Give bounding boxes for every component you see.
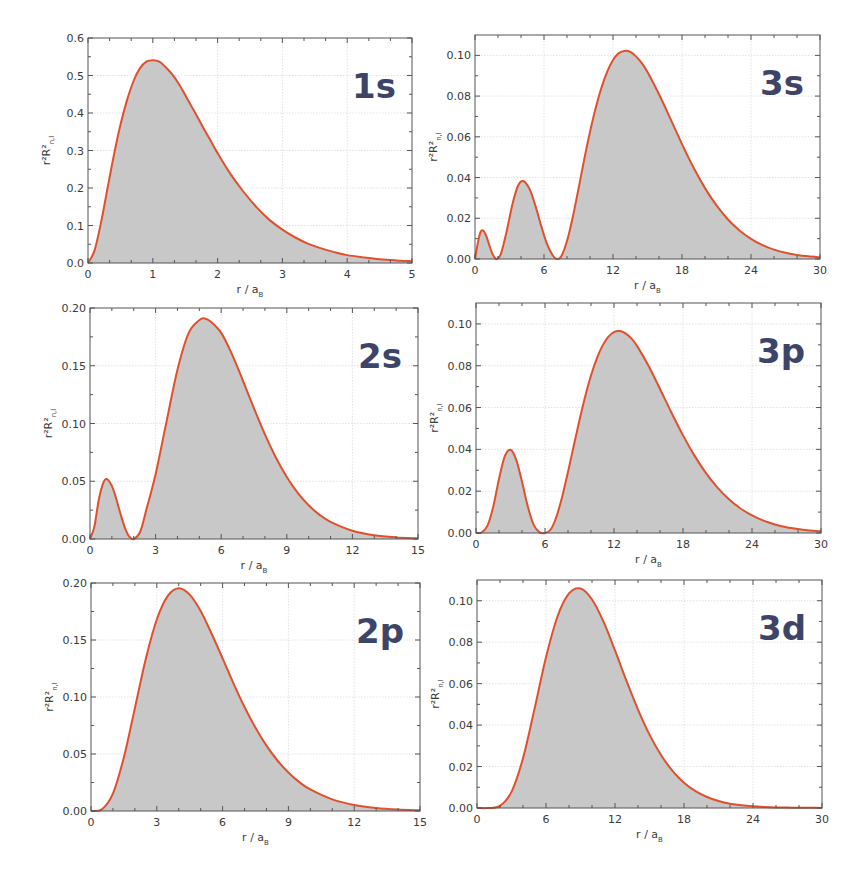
x-axis-label-subscript: B: [259, 291, 264, 299]
y-tick-label: 0.4: [67, 107, 85, 120]
x-tick-label: 12: [347, 816, 361, 829]
y-tick-label: 0.20: [62, 302, 87, 315]
y-tick-label: 0.06: [447, 131, 472, 144]
y-tick-label: 0.00: [62, 533, 87, 546]
orbital-radial-distribution-figure: 0123450.00.10.20.30.40.50.6r / aBr²R²n,l…: [0, 0, 859, 880]
panel-3p: 06121824300.000.020.040.060.080.10r / aB…: [428, 303, 828, 569]
x-axis-label: r / aB: [242, 831, 269, 847]
x-tick-label: 3: [279, 268, 286, 281]
y-tick-label: 0.08: [448, 360, 473, 373]
y-tick-label: 0.10: [449, 595, 474, 608]
y-axis-label: r²R²n,l: [429, 679, 445, 709]
y-tick-label: 0.02: [448, 485, 473, 498]
y-tick-label: 0.04: [447, 172, 472, 185]
y-tick-label: 0.05: [63, 748, 88, 761]
x-tick-label: 18: [676, 538, 690, 551]
y-tick-label: 0.00: [63, 805, 88, 818]
x-tick-label: 18: [677, 813, 691, 826]
x-axis-label: r / aB: [237, 283, 264, 299]
x-tick-label: 0: [88, 816, 95, 829]
x-tick-label: 6: [541, 264, 548, 277]
x-tick-label: 30: [815, 813, 829, 826]
y-tick-label: 0.06: [449, 678, 474, 691]
x-tick-label: 12: [345, 544, 359, 557]
x-tick-label: 24: [746, 813, 760, 826]
x-tick-label: 24: [744, 264, 758, 277]
x-tick-label: 1: [149, 268, 156, 281]
y-tick-label: 0.08: [447, 90, 472, 103]
x-tick-label: 0: [85, 268, 92, 281]
x-tick-label: 6: [219, 816, 226, 829]
y-tick-label: 0.15: [62, 360, 87, 373]
y-tick-label: 0.02: [447, 212, 472, 225]
y-tick-label: 0.10: [447, 49, 472, 62]
x-tick-label: 2: [214, 268, 221, 281]
y-tick-label: 0.0: [67, 257, 85, 270]
y-axis-label-subscript: n,l: [50, 409, 58, 418]
x-axis-label: r / aB: [241, 559, 268, 575]
y-axis-label-subscript: n,l: [48, 136, 56, 145]
y-axis-label: r²R²n,l: [427, 132, 443, 162]
x-tick-label: 0: [474, 813, 481, 826]
x-tick-label: 15: [411, 544, 425, 557]
x-axis-label-subscript: B: [263, 567, 268, 575]
y-axis-label-subscript: n,l: [436, 403, 444, 412]
x-tick-label: 30: [814, 538, 828, 551]
y-axis-label: r²R²n,l: [428, 403, 444, 433]
x-tick-label: 15: [413, 816, 427, 829]
panel-tag: 2p: [356, 611, 404, 651]
y-tick-label: 0.5: [67, 70, 85, 83]
panel-1s: 0123450.00.10.20.30.40.50.6r / aBr²R²n,l…: [40, 32, 416, 299]
panel-tag: 1s: [352, 66, 396, 106]
y-axis-label-subscript: n,l: [51, 682, 59, 691]
y-tick-label: 0.00: [448, 527, 473, 540]
x-tick-label: 0: [472, 264, 479, 277]
y-tick-label: 0.10: [448, 318, 473, 331]
x-tick-label: 6: [543, 813, 550, 826]
x-tick-label: 12: [607, 538, 621, 551]
panel-tag: 2s: [358, 336, 402, 376]
x-tick-label: 18: [675, 264, 689, 277]
x-tick-label: 0: [473, 538, 480, 551]
y-tick-label: 0.3: [67, 145, 85, 158]
y-tick-label: 0.6: [67, 32, 85, 45]
x-tick-label: 9: [283, 544, 290, 557]
x-axis-label: r / aB: [635, 553, 662, 569]
x-tick-label: 6: [218, 544, 225, 557]
y-tick-label: 0.15: [63, 634, 88, 647]
y-tick-label: 0.20: [63, 577, 88, 590]
x-axis-label-subscript: B: [656, 287, 661, 295]
panel-2p: 036912150.000.050.100.150.20r / aBr²R²n,…: [43, 577, 427, 847]
x-axis-label: r / aB: [636, 828, 663, 844]
x-tick-label: 30: [813, 264, 827, 277]
y-tick-label: 0.00: [449, 802, 474, 815]
y-tick-label: 0.10: [62, 418, 87, 431]
x-tick-label: 9: [285, 816, 292, 829]
y-tick-label: 0.00: [447, 253, 472, 266]
x-tick-label: 12: [606, 264, 620, 277]
y-axis-label-subscript: n,l: [437, 679, 445, 688]
y-tick-label: 0.02: [449, 761, 474, 774]
x-tick-label: 12: [608, 813, 622, 826]
panel-tag: 3s: [760, 63, 804, 103]
y-tick-label: 0.10: [63, 691, 88, 704]
y-tick-label: 0.04: [449, 719, 474, 732]
x-axis-label-subscript: B: [264, 839, 269, 847]
panel-3s: 06121824300.000.020.040.060.080.10r / aB…: [427, 35, 827, 295]
x-axis-label: r / aB: [634, 279, 661, 295]
panel-2s: 036912150.000.050.100.150.20r / aBr²R²n,…: [42, 302, 425, 575]
x-tick-label: 6: [542, 538, 549, 551]
x-tick-label: 4: [344, 268, 351, 281]
x-tick-label: 5: [409, 268, 416, 281]
y-axis-label: r²R²n,l: [42, 409, 58, 439]
x-axis-label-subscript: B: [658, 836, 663, 844]
y-axis-label-subscript: n,l: [435, 132, 443, 141]
x-tick-label: 3: [152, 544, 159, 557]
panel-3d: 06121824300.000.020.040.060.080.10r / aB…: [429, 580, 829, 844]
y-tick-label: 0.05: [62, 475, 87, 488]
x-tick-label: 24: [745, 538, 759, 551]
x-axis-label-subscript: B: [657, 561, 662, 569]
y-tick-label: 0.2: [67, 182, 85, 195]
y-axis-label: r²R²n,l: [43, 682, 59, 712]
x-tick-label: 3: [153, 816, 160, 829]
